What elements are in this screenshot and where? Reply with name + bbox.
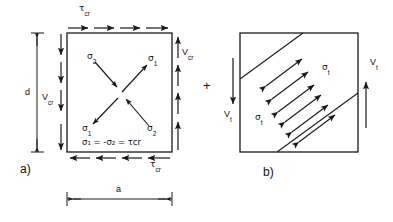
tension-band-line-upper — [240, 33, 303, 79]
sigma-2-label-lower-right: σ2 — [147, 124, 156, 133]
sigma-2-arrow-upper-left — [95, 62, 117, 87]
panel-b-tension-band-lines — [240, 33, 358, 152]
tension-band-line-lower — [277, 93, 358, 152]
panel-b-label: b) — [263, 166, 274, 178]
tension-arrow — [285, 95, 321, 122]
panel-a-principal-stress-arrows — [93, 62, 149, 126]
sigma-t-label-upper: σt — [322, 63, 330, 72]
sigma-2-arrow-lower-right — [126, 99, 149, 126]
panel-b — [233, 33, 366, 152]
sigma-1-label-lower-left: σ1 — [82, 124, 91, 133]
panel-a-label: a) — [20, 163, 31, 175]
panel-b-right-shear-label: Vt — [370, 58, 378, 67]
panel-a-bottom-shear-label: τcr — [150, 160, 161, 169]
tension-arrow — [272, 72, 308, 99]
sigma-1-label-upper-right: σ1 — [148, 54, 157, 63]
panel-a-width-dimension — [67, 192, 172, 206]
panel-b-left-shear-label: Vt — [224, 110, 232, 119]
tension-arrow — [266, 59, 302, 86]
sigma-2-label-upper-left: σ2 — [87, 52, 96, 61]
panel-a-left-shear-label: Vcr — [42, 93, 53, 102]
height-dimension-label: d — [25, 88, 30, 97]
plus-operator: + — [203, 79, 211, 92]
panel-a-right-shear-label: Vcr — [182, 48, 193, 57]
panel-a-web-square — [67, 33, 172, 152]
shear-buckling-figure — [0, 0, 393, 222]
tension-arrow — [278, 85, 314, 112]
sigma-1-arrow-lower-left — [93, 98, 118, 124]
sigma-t-label-lower: σt — [255, 113, 263, 122]
panel-b-web-square — [240, 33, 358, 152]
tension-arrow — [299, 115, 335, 142]
width-dimension-label: a — [116, 185, 121, 194]
principal-stress-equation: σ₁ = -σ₂ = τcr — [82, 138, 141, 147]
sigma-1-arrow-upper-right — [122, 65, 147, 92]
panel-a-top-shear-label: τcr — [79, 4, 90, 13]
